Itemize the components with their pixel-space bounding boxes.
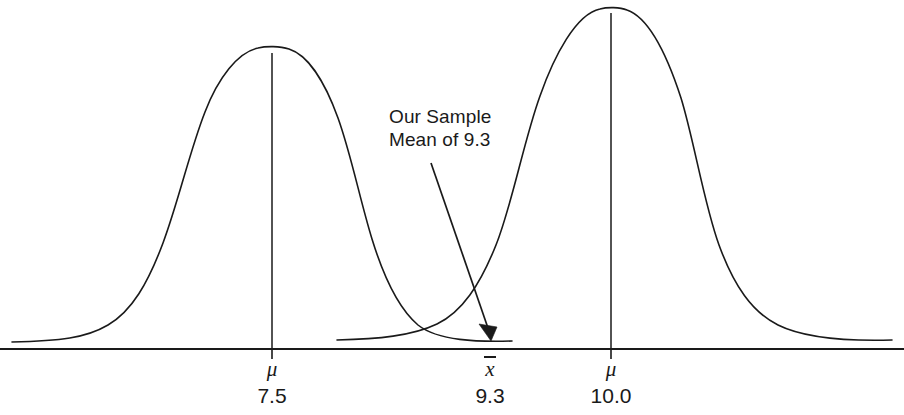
annotation-arrowhead (479, 324, 497, 341)
annotation-text: Our Sample Mean of 9.3 (389, 105, 491, 151)
axis-label-symbol: x (485, 357, 494, 381)
axis-label-mu-10-0: μ 10.0 (551, 357, 671, 409)
figure-canvas (0, 0, 904, 415)
axis-label-symbol: μ (551, 357, 671, 381)
axis-label-xbar-9-3: x 9.3 (430, 357, 550, 409)
axis-label-symbol: μ (212, 357, 332, 381)
axis-label-value: 9.3 (430, 383, 550, 409)
axis-label-symbol-wrap: x (430, 357, 550, 381)
density-curve-mean-10-0 (337, 8, 892, 341)
distribution-comparison-figure: Our Sample Mean of 9.3 μ 7.5 x 9.3 μ 10.… (0, 0, 904, 415)
annotation-text-line-2: Mean of 9.3 (389, 128, 491, 151)
annotation-text-line-1: Our Sample (389, 105, 491, 128)
density-curve-mean-7-5 (12, 47, 512, 342)
axis-label-value: 10.0 (551, 383, 671, 409)
axis-label-value: 7.5 (212, 383, 332, 409)
axis-label-mu-7-5: μ 7.5 (212, 357, 332, 409)
